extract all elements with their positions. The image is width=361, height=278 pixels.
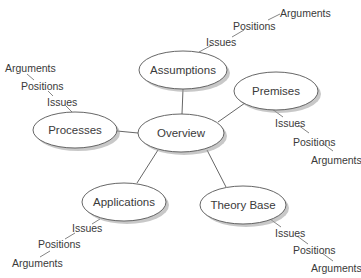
node-overview[interactable]: Overview [138, 114, 227, 155]
chain-positions: Positions [293, 244, 336, 256]
node-assumptions[interactable]: Assumptions [139, 51, 230, 92]
edge-overview-processes [117, 131, 138, 133]
node-label-assumptions: Assumptions [150, 64, 216, 76]
concept-map: Assumptions Premises Processes Overview … [0, 0, 361, 278]
chain-arguments: Arguments [311, 262, 361, 274]
edge-overview-applications [137, 150, 158, 183]
node-label-theory-base: Theory Base [210, 199, 275, 211]
chain-positions: Positions [21, 80, 64, 92]
edge-overview-theory-base [207, 150, 226, 187]
chain-processes: Arguments Positions Issues [5, 62, 77, 108]
chain-arguments: Arguments [280, 7, 331, 19]
node-label-processes: Processes [48, 124, 102, 136]
chain-premises: Issues Positions Arguments [275, 117, 361, 166]
edge-overview-premises [218, 103, 245, 122]
chain-issues: Issues [72, 222, 102, 234]
chain-issues: Issues [275, 117, 305, 129]
node-label-premises: Premises [252, 85, 300, 97]
node-applications[interactable]: Applications [82, 183, 169, 224]
chain-positions: Positions [233, 20, 276, 32]
node-premises[interactable]: Premises [234, 72, 321, 113]
chain-positions: Positions [293, 136, 336, 148]
node-theory-base[interactable]: Theory Base [200, 186, 289, 227]
chain-issues: Issues [275, 227, 305, 239]
chain-arguments: Arguments [311, 154, 361, 166]
chain-positions: Positions [38, 238, 81, 250]
chain-issues: Issues [206, 36, 236, 48]
edge-overview-assumptions [182, 89, 183, 114]
chain-issues: Issues [47, 96, 77, 108]
chain-theory-base: Issues Positions Arguments [275, 227, 361, 274]
chain-applications: Issues Positions Arguments [12, 222, 102, 269]
chain-assumptions: Issues Positions Arguments [206, 7, 331, 48]
node-processes[interactable]: Processes [33, 112, 120, 151]
node-label-applications: Applications [93, 196, 155, 208]
chain-arguments: Arguments [5, 62, 56, 74]
node-label-overview: Overview [157, 127, 206, 139]
chain-arguments: Arguments [12, 257, 63, 269]
